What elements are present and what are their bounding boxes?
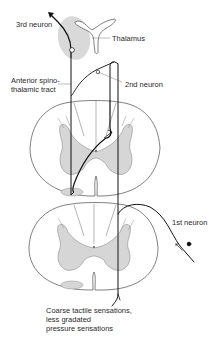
anterior-tract-label-line2: thalamic tract (11, 85, 56, 94)
third-neuron-label: 3rd neuron (16, 20, 52, 29)
anterior-tract-label-line1: Anterior spino- (11, 76, 60, 85)
lower-spinal-cord (29, 203, 158, 291)
sensation-label-line3: pressure sensations (46, 324, 113, 333)
first-neuron-label: 1st neuron (172, 218, 207, 227)
thalamus-label: Thalamus (112, 34, 145, 43)
second-neuron-label: 2nd neuron (125, 80, 163, 89)
sensation-label-line1: Coarse tactile sensations, (46, 306, 132, 315)
sensation-label-line2: less gradated (46, 315, 91, 324)
spinothalamic-diagram (0, 0, 222, 348)
